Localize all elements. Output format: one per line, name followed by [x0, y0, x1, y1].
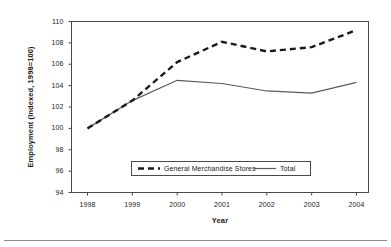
y-tick-label: 94: [40, 189, 64, 197]
y-tick-label: 98: [40, 146, 64, 154]
series-line-general-merchandise-stores: [88, 30, 357, 128]
y-tick-label: 110: [40, 18, 64, 26]
chart-figure: Employment (Indexed, 1998=100) Year 1101…: [0, 0, 391, 247]
legend-swatch-dashed-icon: [138, 164, 160, 173]
x-tick-label: 1998: [68, 201, 108, 209]
y-tick-label: 100: [40, 124, 64, 132]
x-tick-label: 2000: [157, 201, 197, 209]
x-tick-label: 2002: [247, 201, 287, 209]
x-tick-label: 2004: [337, 201, 377, 209]
y-tick-label: 104: [40, 82, 64, 90]
legend-swatch-solid-icon: [254, 164, 276, 173]
legend-item-total: Total: [254, 162, 295, 175]
chart-legend: General Merchandise Stores Total: [131, 161, 311, 176]
legend-label: Total: [280, 164, 295, 173]
legend-item-general-merchandise-stores: General Merchandise Stores: [138, 162, 256, 175]
legend-label: General Merchandise Stores: [164, 164, 256, 173]
x-axis-title: Year: [71, 216, 369, 225]
y-tick-label: 102: [40, 103, 64, 111]
x-tick-label: 2001: [202, 201, 242, 209]
y-tick-label: 108: [40, 39, 64, 47]
x-tick-label: 1999: [112, 201, 152, 209]
y-tick-label: 96: [40, 167, 64, 175]
footer-divider: [4, 240, 387, 241]
x-tick-label: 2003: [292, 201, 332, 209]
series-line-total: [88, 80, 357, 128]
y-tick-label: 106: [40, 60, 64, 68]
y-axis-title: Employment (Indexed, 1998=100): [24, 21, 38, 193]
